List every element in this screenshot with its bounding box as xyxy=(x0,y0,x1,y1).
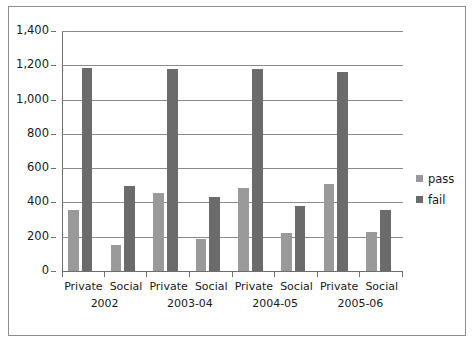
bar-slot xyxy=(318,31,361,271)
y-tick-mark xyxy=(51,31,56,32)
x-tick xyxy=(360,271,403,277)
x-group-label: 2002 xyxy=(62,297,147,310)
bar-fail xyxy=(82,68,93,271)
y-tick-mark xyxy=(51,202,56,203)
x-group-label: 2004-05 xyxy=(233,297,318,310)
x-tick xyxy=(275,271,318,277)
bar-slot xyxy=(105,31,148,271)
bar-slot xyxy=(62,31,105,271)
bar-slot xyxy=(190,31,233,271)
y-tick-label: 1,200 xyxy=(16,57,49,71)
x-tick xyxy=(233,271,276,277)
plot-area xyxy=(62,31,403,271)
x-category-label: Social xyxy=(275,280,318,293)
y-tick-label: 1,000 xyxy=(16,92,49,106)
bar-pass xyxy=(238,188,249,271)
bar-pass xyxy=(68,210,79,271)
x-category-label: Social xyxy=(360,280,403,293)
bar-pass xyxy=(196,239,207,271)
bar-slot xyxy=(147,31,190,271)
x-tick xyxy=(318,271,361,277)
y-tick-label: 0 xyxy=(42,263,49,277)
legend-swatch-icon xyxy=(416,175,423,182)
chart-figure: 1,4001,2001,0008006004002000 PrivateSoci… xyxy=(0,0,476,346)
bar-fail xyxy=(380,210,391,271)
y-tick-label: 1,400 xyxy=(16,23,49,37)
y-tick-label: 600 xyxy=(27,160,49,174)
bar-slot xyxy=(275,31,318,271)
x-category-label: Social xyxy=(105,280,148,293)
bar-pass xyxy=(324,184,335,271)
bar-slot xyxy=(233,31,276,271)
x-tick xyxy=(147,271,190,277)
y-tick-mark xyxy=(51,237,56,238)
legend-swatch-icon xyxy=(416,196,423,203)
y-tick-label: 400 xyxy=(27,194,49,208)
legend-item-pass[interactable]: pass xyxy=(416,168,464,189)
bar-pass xyxy=(281,233,292,271)
x-category-label: Private xyxy=(62,280,105,293)
y-tick-mark xyxy=(51,100,56,101)
bar-slot xyxy=(360,31,403,271)
x-axis-ticks xyxy=(62,271,403,277)
legend-label: pass xyxy=(428,172,454,186)
y-tick-mark xyxy=(51,271,56,272)
bar-pass xyxy=(153,193,164,271)
bar-pass xyxy=(366,232,377,271)
x-category-label: Social xyxy=(190,280,233,293)
bar-fail xyxy=(124,186,135,271)
y-tick-label: 800 xyxy=(27,126,49,140)
bar-fail xyxy=(337,72,348,271)
y-axis-tick-labels: 1,4001,2001,0008006004002000 xyxy=(0,31,56,271)
y-tick-label: 200 xyxy=(27,229,49,243)
x-axis-group-labels: 20022003-042004-052005-06 xyxy=(62,297,403,310)
bar-pass xyxy=(111,245,122,271)
chart-legend: passfail xyxy=(416,168,464,210)
bar-fail xyxy=(252,69,263,271)
x-category-label: Private xyxy=(147,280,190,293)
x-category-label: Private xyxy=(233,280,276,293)
x-category-label: Private xyxy=(318,280,361,293)
y-tick-mark xyxy=(51,65,56,66)
x-tick xyxy=(190,271,233,277)
legend-item-fail[interactable]: fail xyxy=(416,189,464,210)
y-tick-mark xyxy=(51,134,56,135)
x-group-label: 2005-06 xyxy=(318,297,403,310)
x-axis-category-labels: PrivateSocialPrivateSocialPrivateSocialP… xyxy=(62,280,403,293)
bar-fail xyxy=(295,206,306,271)
bar-groups xyxy=(62,31,403,271)
legend-label: fail xyxy=(428,193,446,207)
bar-fail xyxy=(167,69,178,271)
x-tick xyxy=(105,271,148,277)
x-tick xyxy=(62,271,105,277)
x-group-label: 2003-04 xyxy=(147,297,232,310)
y-tick-mark xyxy=(51,168,56,169)
bar-fail xyxy=(209,197,220,271)
